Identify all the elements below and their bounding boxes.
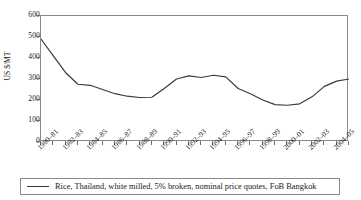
x-axis-labels: 1980–811982–831984–851986–871988–891990–… (0, 146, 361, 176)
x-tick-mark (225, 141, 226, 145)
y-axis: 6005004003002001000 (0, 0, 40, 160)
x-tick-mark (77, 141, 78, 145)
x-tick-mark (151, 141, 152, 145)
x-tick-mark (126, 141, 127, 145)
plot-area (40, 15, 348, 141)
x-tick-mark (348, 141, 349, 145)
x-tick-mark (299, 141, 300, 145)
x-tick-mark (52, 141, 53, 145)
x-tick-mark (249, 141, 250, 145)
legend-line-swatch (27, 186, 49, 187)
chart-legend: Rice, Thailand, white milled, 5% broken,… (20, 178, 340, 195)
data-series-line (41, 16, 349, 142)
x-tick-mark (274, 141, 275, 145)
chart-figure: US $/MT 6005004003002001000 1980–811982–… (0, 0, 361, 200)
x-tick-mark (102, 141, 103, 145)
x-tick-mark (200, 141, 201, 145)
x-tick-mark (323, 141, 324, 145)
x-tick-mark (176, 141, 177, 145)
legend-entry-label: Rice, Thailand, white milled, 5% broken,… (55, 182, 317, 191)
series-polyline (41, 39, 349, 105)
